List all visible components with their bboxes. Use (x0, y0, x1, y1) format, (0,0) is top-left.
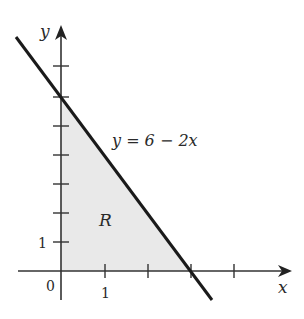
y-axis-label: y (39, 21, 50, 41)
origin-label: 0 (46, 278, 55, 294)
region-diagram: y x 0 1 1 R y = 6 − 2x (0, 0, 304, 319)
region-label: R (98, 210, 112, 230)
x-axis-label: x (278, 277, 288, 297)
x-tick-label-1: 1 (101, 285, 110, 301)
y-tick-label-1: 1 (38, 235, 47, 251)
line-equation-label: y = 6 − 2x (111, 131, 198, 150)
